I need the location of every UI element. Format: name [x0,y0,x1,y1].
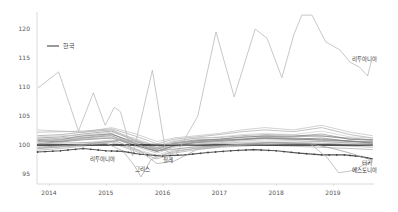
annotation-label: 에스토니아 [352,166,377,174]
series-marker [44,151,46,153]
series-marker [237,150,239,152]
legend-label-korea: 한국 [63,42,75,50]
series-marker [306,153,308,155]
chart-axes: 9510010511011512020142015201620172018201… [19,12,374,196]
annotations-group: 리투아니아리투아니아그리스칠레터키에스토니아 [90,55,376,174]
series-marker [245,149,247,151]
x-tick-label: 2018 [269,189,284,196]
annotation-label: 리투아니아 [90,155,115,163]
series-marker [275,150,277,152]
x-tick-label: 2016 [155,189,170,196]
series-marker [154,155,156,157]
series-marker [133,152,135,154]
line-chart: 9510010511011512020142015201620172018201… [0,0,398,212]
y-tick-label: 110 [19,83,31,90]
series-marker [37,151,39,153]
series-marker [82,148,84,150]
series-marker [192,153,194,155]
series-marker [260,149,262,151]
series-marker [349,155,351,157]
y-tick-label: 105 [19,112,31,119]
y-tick-label: 100 [19,141,31,148]
series-marker [336,154,338,156]
series-marker [177,154,179,156]
series-marker [67,149,69,151]
series-marker [60,150,62,152]
series-marker [207,152,209,154]
y-tick-label: 120 [19,25,31,32]
x-tick-label: 2019 [325,189,340,196]
annotation-label: 그리스 [135,165,150,173]
series-marker [328,154,330,156]
series-marker [97,149,99,151]
series-marker [215,151,217,153]
series-marker [147,154,149,156]
series-marker [253,149,255,151]
series-marker [90,148,92,150]
series-marker [230,150,232,152]
series-marker [75,148,77,150]
series-marker [116,150,118,152]
series-marker [105,150,107,152]
annotation-label: 리투아니아 [352,55,377,63]
series-marker [344,154,346,156]
x-tick-label: 2014 [41,189,56,196]
series-marker [290,151,292,153]
series-marker [313,153,315,155]
series-marker [169,155,171,157]
series-marker [111,150,113,152]
series-marker [139,153,141,155]
series-marker [298,152,300,154]
series-marker [283,151,285,153]
y-tick-label: 115 [19,54,31,61]
highlighted-series-group [37,15,373,177]
series-marker [128,151,130,153]
annotation-label: 터키 [362,159,372,167]
x-tick-label: 2015 [98,189,113,196]
x-tick-label: 2017 [212,189,227,196]
series-marker [52,150,54,152]
y-tick-label: 95 [22,170,30,177]
series-marker [222,151,224,153]
series-marker [268,150,270,152]
series-marker [200,152,202,154]
annotation-label: 칠레 [163,156,173,164]
series-marker [321,154,323,156]
legend: 한국 [47,42,75,50]
